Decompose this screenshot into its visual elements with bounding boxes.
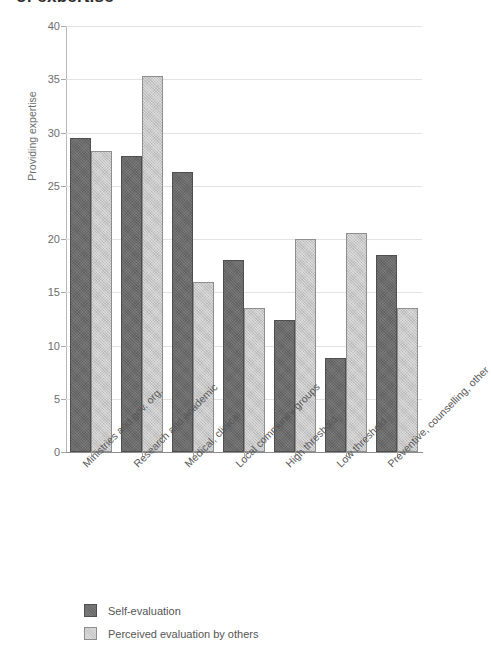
y-axis-tick-label: 5 xyxy=(54,393,60,405)
y-axis-tick-label: 15 xyxy=(48,286,60,298)
y-axis-tick xyxy=(61,346,66,347)
y-axis-tick-label: 35 xyxy=(48,73,60,85)
y-axis-tick xyxy=(61,26,66,27)
y-axis-tick xyxy=(61,133,66,134)
y-axis-tick-label: 10 xyxy=(48,340,60,352)
legend-label: Perceived evaluation by others xyxy=(108,628,258,640)
bar-group xyxy=(376,26,418,452)
bar-self-evaluation xyxy=(325,358,346,452)
chart-legend: Self-evaluationPerceived evaluation by o… xyxy=(84,604,258,650)
y-axis-tick xyxy=(61,292,66,293)
legend-swatch-dark xyxy=(84,604,97,617)
y-axis-tick-label: 0 xyxy=(54,446,60,458)
y-axis-tick xyxy=(61,452,66,453)
y-axis-tick xyxy=(61,186,66,187)
chart-title: of expertise xyxy=(16,0,114,2)
legend-item[interactable]: Self-evaluation xyxy=(84,604,258,617)
bar-self-evaluation xyxy=(70,138,91,452)
legend-item[interactable]: Perceived evaluation by others xyxy=(84,627,258,640)
chart-figure: of expertise Providing expertise 0510152… xyxy=(0,0,491,671)
bar-group xyxy=(70,26,112,452)
bar-perceived-evaluation xyxy=(295,239,316,452)
bar-perceived-evaluation xyxy=(346,233,367,452)
bar-perceived-evaluation xyxy=(91,151,112,452)
legend-label: Self-evaluation xyxy=(108,605,181,617)
bar-group xyxy=(223,26,265,452)
plot-area xyxy=(66,26,422,452)
bar-perceived-evaluation xyxy=(193,282,214,452)
bar-group xyxy=(325,26,367,452)
y-axis-tick-labels: 0510152025303540 xyxy=(26,26,60,452)
y-axis-tick-label: 40 xyxy=(48,20,60,32)
y-axis-tick-label: 30 xyxy=(48,127,60,139)
y-axis-tick xyxy=(61,399,66,400)
y-axis-tick xyxy=(61,239,66,240)
y-axis-tick xyxy=(61,79,66,80)
y-axis-tick-label: 20 xyxy=(48,233,60,245)
y-axis-tick-label: 25 xyxy=(48,180,60,192)
legend-swatch-light xyxy=(84,627,97,640)
